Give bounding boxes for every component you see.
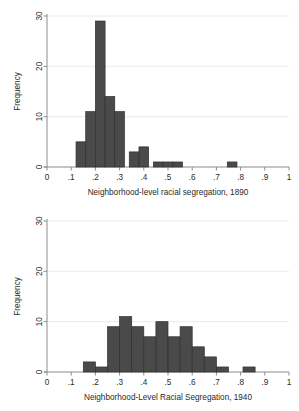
x-tick-label: .9	[261, 378, 268, 387]
histogram-bar	[156, 322, 168, 372]
y-tick-label: 20	[35, 266, 44, 276]
y-axis-title: Frequency	[13, 71, 22, 111]
y-tick-label: 10	[35, 112, 44, 122]
x-tick-label: .5	[165, 378, 172, 387]
x-tick-label: .8	[237, 378, 244, 387]
histogram-bar	[216, 367, 228, 372]
x-tick-label: 1	[287, 378, 292, 387]
x-tick-label: .6	[189, 173, 196, 182]
plot-area-1890: 01020300.1.2.3.4.5.6.7.8.91Neighborhood-…	[0, 0, 299, 205]
chart-panel-1940: 01020300.1.2.3.4.5.6.7.8.91Neighborhood-…	[0, 205, 299, 410]
x-tick-label: .5	[165, 173, 172, 182]
histogram-bar	[83, 362, 95, 372]
x-tick-label: .8	[237, 173, 244, 182]
histogram-bar	[108, 327, 120, 372]
histogram-svg-1940: 01020300.1.2.3.4.5.6.7.8.91Neighborhood-…	[0, 205, 299, 410]
histogram-figure: 01020300.1.2.3.4.5.6.7.8.91Neighborhood-…	[0, 0, 299, 411]
y-tick-label: 30	[35, 11, 44, 21]
plot-area-1940: 01020300.1.2.3.4.5.6.7.8.91Neighborhood-…	[0, 205, 299, 410]
y-tick-label: 10	[35, 317, 44, 327]
x-tick-label: .7	[213, 378, 220, 387]
x-tick-label: 0	[45, 173, 50, 182]
histogram-bar	[139, 147, 149, 167]
histogram-svg-1890: 01020300.1.2.3.4.5.6.7.8.91Neighborhood-…	[0, 0, 299, 205]
histogram-bar	[180, 327, 192, 372]
histogram-bar	[227, 162, 237, 167]
histogram-bar	[132, 327, 144, 372]
x-tick-label: .9	[261, 173, 268, 182]
histogram-bar	[86, 112, 96, 167]
x-tick-label: .4	[140, 378, 147, 387]
histogram-bar	[95, 21, 105, 167]
y-tick-label: 30	[35, 216, 44, 226]
x-tick-label: .1	[68, 173, 75, 182]
chart-panel-1890: 01020300.1.2.3.4.5.6.7.8.91Neighborhood-…	[0, 0, 299, 205]
x-tick-label: .2	[92, 378, 99, 387]
histogram-bar	[173, 162, 183, 167]
histogram-bar	[120, 317, 132, 372]
x-tick-label: .4	[140, 173, 147, 182]
histogram-bar	[163, 162, 173, 167]
histogram-bar	[95, 367, 107, 372]
y-tick-label: 20	[35, 61, 44, 71]
y-tick-label: 0	[35, 369, 44, 374]
histogram-bar	[129, 152, 139, 167]
histogram-bar	[192, 347, 204, 372]
x-tick-label: .3	[116, 173, 123, 182]
histogram-bar	[168, 337, 180, 372]
x-axis-title: Neighborhood-level racial segregation, 1…	[88, 188, 249, 197]
histogram-bar	[105, 97, 115, 167]
x-tick-label: 0	[45, 378, 50, 387]
x-tick-label: .3	[116, 378, 123, 387]
x-tick-label: 1	[287, 173, 292, 182]
x-axis-title: Neighborhood-Level Racial Segregation, 1…	[84, 393, 252, 402]
y-axis-title: Frequency	[13, 276, 22, 316]
x-tick-label: .6	[189, 378, 196, 387]
histogram-bar	[115, 112, 125, 167]
histogram-bar	[144, 337, 156, 372]
x-tick-label: .2	[92, 173, 99, 182]
x-tick-label: .7	[213, 173, 220, 182]
y-tick-label: 0	[35, 164, 44, 169]
histogram-bar	[153, 162, 163, 167]
x-tick-label: .1	[68, 378, 75, 387]
histogram-bar	[76, 142, 86, 167]
histogram-bar	[243, 367, 255, 372]
histogram-bar	[204, 357, 216, 372]
